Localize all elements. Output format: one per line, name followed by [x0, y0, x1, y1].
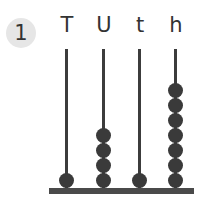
bead	[96, 143, 111, 158]
bead	[168, 173, 183, 188]
bead	[168, 113, 183, 128]
rod-t	[138, 49, 141, 191]
bead	[96, 158, 111, 173]
column-label-t: t	[130, 13, 150, 37]
bead	[59, 173, 74, 188]
bead	[96, 173, 111, 188]
bead	[168, 98, 183, 113]
bead	[168, 158, 183, 173]
bead	[96, 128, 111, 143]
bead	[132, 173, 147, 188]
column-label-U: U	[94, 13, 114, 37]
column-label-h: h	[166, 13, 186, 37]
question-number: 1	[14, 21, 27, 45]
rod-T	[65, 49, 68, 191]
abacus-base	[49, 188, 194, 194]
column-label-T: T	[57, 13, 77, 37]
bead	[168, 128, 183, 143]
bead	[168, 83, 183, 98]
bead	[168, 143, 183, 158]
question-number-badge: 1	[6, 18, 36, 48]
